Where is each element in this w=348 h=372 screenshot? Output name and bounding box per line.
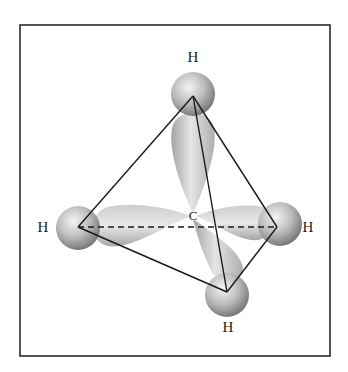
hydrogen-sphere-top [171,72,215,116]
diagram-frame [20,25,330,356]
carbon-label: C [189,208,198,223]
hydrogen-sphere-bottom [205,273,249,317]
hydrogen-spheres [56,72,302,317]
orbital-lobe-top [171,113,215,214]
hydrogen-sphere-left [56,206,100,250]
hydrogen-label-left: H [38,219,49,235]
methane-tetrahedron-diagram: C H H H H [0,0,348,372]
hydrogen-label-right: H [303,219,314,235]
hydrogen-label-bottom: H [223,319,234,335]
hydrogen-label-top: H [188,49,199,65]
orbital-lobes [93,113,271,281]
